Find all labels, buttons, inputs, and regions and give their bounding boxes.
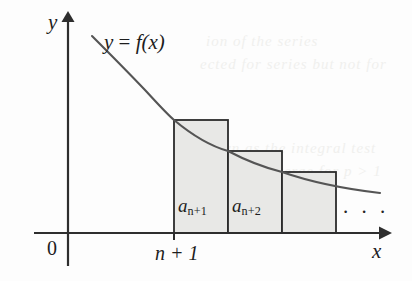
origin-label: 0 bbox=[47, 238, 57, 258]
bar-label-a-n-plus-1-sub: n+1 bbox=[188, 204, 207, 218]
curve-label-equals: = bbox=[119, 30, 131, 54]
bar-label-a-n-plus-2-sub: n+2 bbox=[242, 204, 261, 218]
curve-equation-label: y = f(x) bbox=[104, 32, 165, 53]
bar-label-a-n-plus-1: an+1 bbox=[178, 196, 207, 218]
curve-label-fx: f(x) bbox=[136, 30, 165, 54]
ellipsis-label: . . . bbox=[343, 196, 389, 217]
curve-label-y: y bbox=[104, 30, 113, 54]
diagram-canvas bbox=[0, 0, 412, 281]
integral-test-figure: ion of the series ected for series but n… bbox=[0, 0, 412, 281]
bar-label-a-n-plus-1-base: a bbox=[178, 195, 188, 216]
bar-label-a-n-plus-2: an+2 bbox=[232, 196, 261, 218]
x-axis-label: x bbox=[372, 241, 381, 262]
bar-label-a-n-plus-2-base: a bbox=[232, 195, 242, 216]
x-tick-label-n-plus-1: n + 1 bbox=[155, 243, 199, 263]
y-axis bbox=[62, 11, 75, 266]
y-axis-label: y bbox=[48, 12, 57, 33]
